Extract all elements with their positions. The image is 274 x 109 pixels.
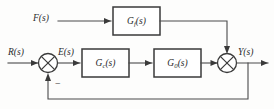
error-signal-label: E(s) (58, 47, 74, 57)
feedforward-input-wire (58, 18, 111, 24)
plant-to-summer-wire (201, 60, 218, 66)
error-wire (58, 60, 81, 66)
reference-input-label: R(s) (8, 47, 24, 57)
plant-block-label: G0(s) (167, 58, 187, 69)
block-diagram: Gf(s) Gc(s) (0, 0, 274, 109)
controller-to-plant-wire (129, 60, 152, 66)
left-summing-junction (39, 54, 58, 73)
controller-block-label: Gc(s) (96, 58, 116, 69)
right-summing-junction (218, 54, 237, 73)
output-signal-label: Y(s) (238, 47, 253, 57)
output-wire (237, 60, 269, 66)
negative-feedback-sign: − (55, 79, 61, 89)
feedback-wire (45, 63, 248, 99)
feedforward-input-label: F(s) (33, 13, 49, 23)
feedforward-block-label: Gf(s) (127, 16, 146, 27)
reference-input-wire (8, 60, 38, 66)
